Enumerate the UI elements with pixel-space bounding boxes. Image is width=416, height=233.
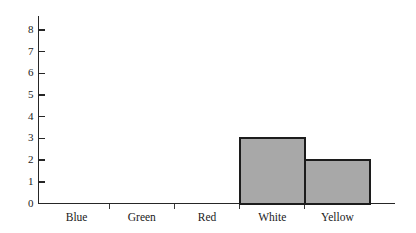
chart-plot-area <box>0 0 416 233</box>
y-axis-tick-label: 3 <box>20 132 34 143</box>
x-axis-label-green: Green <box>128 211 156 223</box>
y-axis-tick-label: 5 <box>20 89 34 100</box>
x-axis-label-blue: Blue <box>66 211 88 223</box>
y-axis-tick-label: 1 <box>20 176 34 187</box>
y-axis-tick-label: 6 <box>20 67 34 78</box>
bar-chart: 012345678 BlueGreenRedWhiteYellow <box>0 0 416 233</box>
y-axis-tick-label: 4 <box>20 111 34 122</box>
bars-group <box>240 138 370 203</box>
y-axis-tick-label: 8 <box>20 24 34 35</box>
y-axis-tick-label: 7 <box>20 46 34 57</box>
bar-white[interactable] <box>240 138 305 203</box>
y-axis-tick-label: 2 <box>20 154 34 165</box>
y-axis-tick-label: 0 <box>20 198 34 209</box>
x-axis-label-white: White <box>258 211 286 223</box>
x-axis-label-yellow: Yellow <box>321 211 354 223</box>
x-axis-label-red: Red <box>198 211 217 223</box>
bar-yellow[interactable] <box>305 160 370 203</box>
